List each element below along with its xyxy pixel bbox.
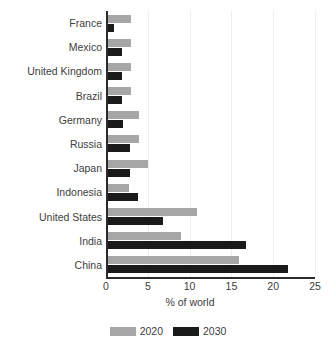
bar-group [106,132,315,156]
x-tick-0: 0 [103,280,109,292]
x-axis-tick-labels: 0510152025 [106,280,315,296]
bar-group [106,11,315,35]
bar-2020-france [106,15,131,23]
plot-area [106,11,315,277]
bar-2030-india [106,241,246,249]
chart-legend: 20202030 [0,325,336,337]
legend-item-2020[interactable]: 2020 [110,325,163,337]
y-tick-germany: Germany [0,108,102,132]
legend-label-2020: 2020 [140,325,163,337]
bar-chart: FranceMexicoUnited KingdomBrazilGermanyR… [0,0,336,353]
bar-2030-russia [106,144,130,152]
bar-2020-mexico [106,39,131,47]
bar-group [106,156,315,180]
bar-2020-brazil [106,87,131,95]
bar-2030-brazil [106,96,122,104]
bar-2020-germany [106,111,139,119]
x-tick-15: 15 [226,280,238,292]
y-tick-indonesia: Indonesia [0,180,102,204]
legend-swatch-2030 [173,327,199,336]
x-tick-25: 25 [309,280,321,292]
y-tick-china: China [0,253,102,277]
bar-group [106,229,315,253]
bar-group [106,253,315,277]
bar-2020-india [106,232,181,240]
y-axis-tick-labels: FranceMexicoUnited KingdomBrazilGermanyR… [0,11,102,277]
bar-2030-germany [106,120,123,128]
y-tick-united-states: United States [0,204,102,228]
y-tick-mexico: Mexico [0,35,102,59]
y-tick-russia: Russia [0,132,102,156]
y-axis-line [106,11,108,278]
x-axis-line [106,277,315,279]
bar-group [106,204,315,228]
y-tick-united-kingdom: United Kingdom [0,59,102,83]
bar-2030-china [106,265,288,273]
gridline [315,11,316,277]
bar-2020-japan [106,160,148,168]
bar-group [106,35,315,59]
bar-2030-mexico [106,48,122,56]
bar-2020-united-states [106,208,197,216]
bar-group [106,84,315,108]
x-tick-10: 10 [184,280,196,292]
bar-group [106,108,315,132]
y-tick-brazil: Brazil [0,84,102,108]
bar-group [106,59,315,83]
x-axis-title: % of world [0,296,336,308]
bar-2030-united-kingdom [106,72,122,80]
legend-label-2030: 2030 [203,325,226,337]
bar-groups [106,11,315,277]
bar-2020-united-kingdom [106,63,131,71]
x-tick-5: 5 [145,280,151,292]
x-tick-20: 20 [267,280,279,292]
y-tick-japan: Japan [0,156,102,180]
bar-2030-united-states [106,217,163,225]
legend-swatch-2020 [110,327,136,336]
bar-2020-russia [106,135,139,143]
legend-item-2030[interactable]: 2030 [173,325,226,337]
bar-2030-japan [106,169,130,177]
y-tick-india: India [0,229,102,253]
y-tick-france: France [0,11,102,35]
bar-2020-indonesia [106,184,129,192]
bar-2020-china [106,256,239,264]
bar-2030-indonesia [106,193,138,201]
bar-group [106,180,315,204]
